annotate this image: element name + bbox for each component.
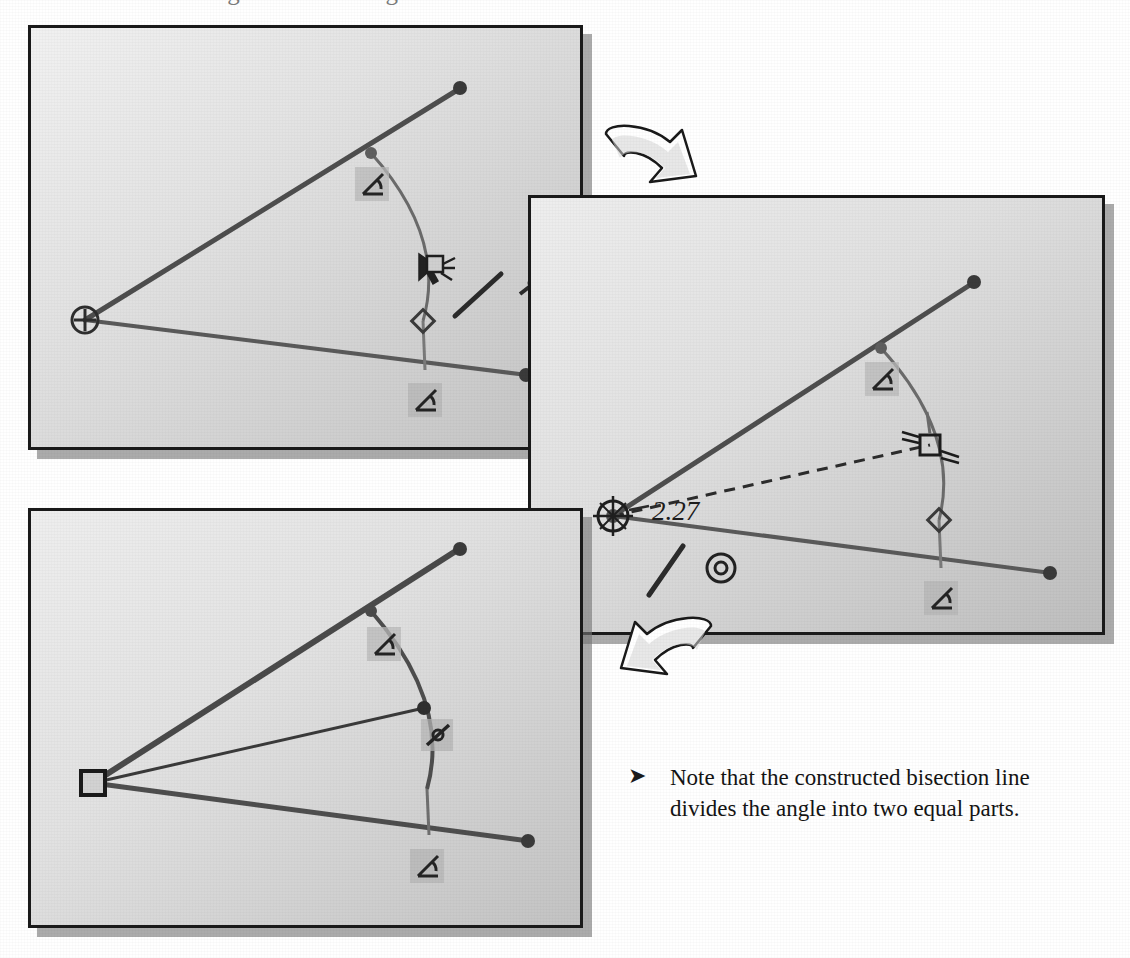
arc-to-lower-ray-tick — [939, 520, 941, 568]
page-title-text: Create a bisecting line for the angle — [61, 0, 416, 5]
panel-2-canvas: 2.27 — [531, 198, 1105, 635]
note-bullet-arrow-icon: ➤ — [628, 762, 646, 790]
angle-constraint-glyph-mid-icon — [421, 719, 453, 751]
note-text: Note that the constructed bisection line… — [670, 762, 1058, 824]
vertex-square-handle-icon[interactable] — [81, 771, 105, 795]
step-1-screenshot[interactable] — [28, 25, 583, 450]
note-callout: ➤ Note that the constructed bisection li… — [628, 762, 1058, 824]
endpoint-dot-lower — [1043, 566, 1057, 580]
endpoint-dot-upper — [453, 81, 467, 95]
page-title-number: 4. — [28, 0, 47, 5]
panel-3-canvas — [31, 511, 583, 928]
arc-start-point — [365, 147, 377, 159]
arc-start-point — [365, 605, 377, 617]
step-3-screenshot[interactable] — [28, 508, 583, 928]
step-2-screenshot[interactable]: 2.27 — [528, 195, 1105, 635]
arc-to-lower-ray-tick — [423, 321, 425, 370]
dimension-readout-label: 2.27 — [652, 496, 701, 526]
angle-constraint-glyph-lower-icon — [408, 383, 442, 417]
flow-arrow-step1-to-step2 — [600, 120, 725, 205]
endpoint-dot-upper — [967, 275, 981, 289]
vertex-circle-with-cross-icon — [72, 307, 98, 333]
angle-constraint-glyph-lower-icon — [410, 849, 444, 883]
angle-constraint-glyph-upper-icon — [367, 627, 401, 661]
endpoint-dot-upper — [453, 542, 467, 556]
angle-constraint-glyph-lower-icon — [924, 581, 958, 615]
flow-arrow-step2-to-step3 — [592, 612, 717, 697]
page-title: 4.Create a bisecting line for the angle — [28, 0, 728, 6]
panel-1-canvas — [31, 28, 583, 450]
bisection-endpoint-dot — [417, 701, 431, 715]
endpoint-dot-lower — [521, 834, 535, 848]
angle-constraint-glyph-icon — [865, 362, 899, 396]
arc-to-lower-ray-tick — [427, 789, 429, 835]
arc-start-point — [875, 342, 887, 354]
angle-constraint-glyph-upper-icon — [355, 167, 389, 201]
